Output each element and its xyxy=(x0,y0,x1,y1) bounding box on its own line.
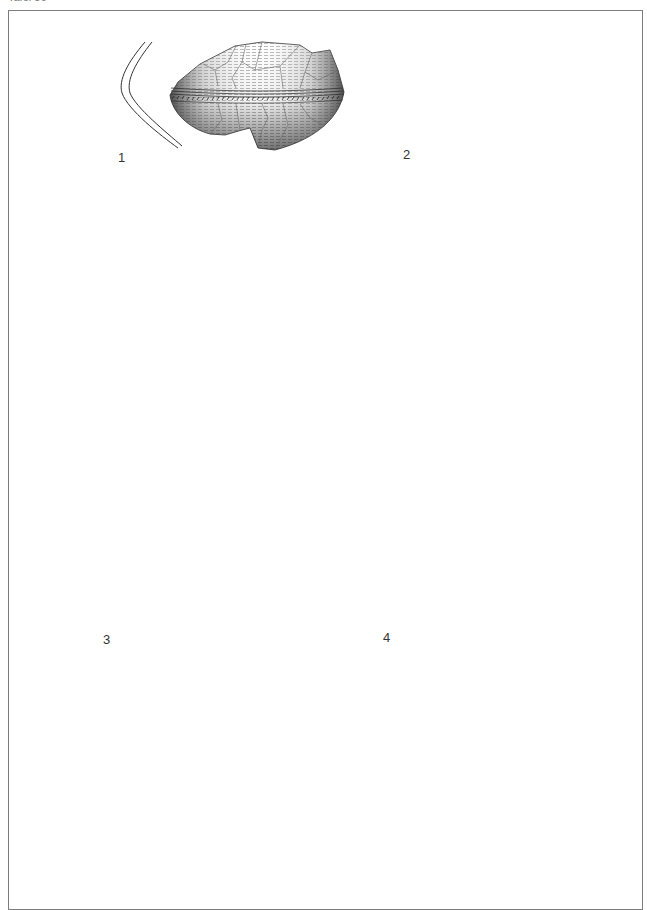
figure-label-2: 2 xyxy=(403,147,410,162)
figure-label-3: 3 xyxy=(103,632,110,647)
figure-label-4: 4 xyxy=(383,630,390,645)
figure-1-pottery-sherd xyxy=(121,42,344,150)
figure-label-1: 1 xyxy=(118,150,125,165)
